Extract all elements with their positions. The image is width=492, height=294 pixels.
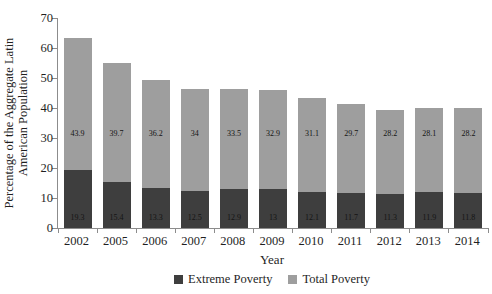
total-poverty-segment: [259, 90, 287, 189]
x-axis-label-2007: 2007: [174, 234, 213, 248]
total-poverty-segment: [415, 108, 443, 192]
legend-item-total-poverty: Total Poverty: [288, 272, 370, 286]
x-tick-mark: [488, 228, 489, 233]
extreme-poverty-value-label: 19.3: [58, 213, 97, 222]
poverty-stacked-bar-chart: Percentage of the Aggregate Latin Americ…: [0, 0, 492, 294]
x-axis-label-2010: 2010: [291, 234, 330, 248]
x-axis-label-2006: 2006: [135, 234, 174, 248]
legend: Extreme Poverty Total Poverty: [57, 272, 487, 286]
extreme-poverty-value-label: 13.3: [136, 213, 175, 222]
total-poverty-segment: [103, 63, 131, 182]
x-tick-mark: [409, 228, 410, 233]
bar-2010: 12.131.1: [293, 18, 332, 228]
x-axis-label-2014: 2014: [448, 234, 487, 248]
extreme-poverty-value-label: 11.9: [410, 213, 449, 222]
extreme-poverty-value-label: 12.9: [214, 213, 253, 222]
total-poverty-value-label: 31.1: [293, 129, 332, 138]
total-poverty-segment: [181, 89, 209, 191]
x-tick-mark: [136, 228, 137, 233]
extreme-poverty-value-label: 11.3: [371, 213, 410, 222]
legend-label-total-poverty: Total Poverty: [302, 272, 370, 286]
extreme-poverty-segment: [415, 192, 443, 228]
extreme-poverty-value-label: 12.1: [293, 213, 332, 222]
bar-2002: 19.343.9: [58, 18, 97, 228]
x-axis-label-2011: 2011: [331, 234, 370, 248]
extreme-poverty-value-label: 11.8: [449, 213, 488, 222]
y-tick-label: 40: [15, 101, 53, 115]
x-axis-title: Year: [57, 252, 487, 267]
total-poverty-segment: [337, 104, 365, 193]
bar-2012: 11.328.2: [371, 18, 410, 228]
bar-2006: 13.336.2: [136, 18, 175, 228]
x-axis-label-2002: 2002: [57, 234, 96, 248]
x-axis-labels: 2002200520062007200820092010201120122013…: [57, 234, 487, 248]
y-tick-label: 70: [15, 11, 53, 25]
bar-2008: 12.933.5: [214, 18, 253, 228]
total-poverty-value-label: 29.7: [332, 129, 371, 138]
x-tick-mark: [175, 228, 176, 233]
extreme-poverty-segment: [454, 193, 482, 228]
x-axis-label-2005: 2005: [96, 234, 135, 248]
bar-2014: 11.828.2: [449, 18, 488, 228]
x-tick-mark: [370, 228, 371, 233]
bar-2011: 11.729.7: [332, 18, 371, 228]
x-tick-mark: [58, 228, 59, 233]
total-poverty-segment: [220, 89, 248, 190]
y-tick-label: 20: [15, 161, 53, 175]
y-tick-label: 60: [15, 41, 53, 55]
extreme-poverty-segment: [259, 189, 287, 228]
y-axis-title-line1: Percentage of the Aggregate Latin: [2, 13, 16, 233]
extreme-poverty-segment: [376, 194, 404, 228]
y-tick-label: 50: [15, 71, 53, 85]
total-poverty-value-label: 39.7: [97, 129, 136, 138]
total-poverty-value-label: 36.2: [136, 129, 175, 138]
total-poverty-segment: [454, 108, 482, 193]
x-axis-label-2009: 2009: [252, 234, 291, 248]
extreme-poverty-segment: [142, 188, 170, 228]
x-axis-label-2008: 2008: [213, 234, 252, 248]
total-poverty-segment: [64, 38, 92, 170]
bar-2009: 1332.9: [253, 18, 292, 228]
x-tick-mark: [253, 228, 254, 233]
y-tick-label: 30: [15, 131, 53, 145]
x-axis-label-2013: 2013: [409, 234, 448, 248]
total-poverty-value-label: 34: [175, 129, 214, 138]
total-poverty-value-label: 28.2: [449, 129, 488, 138]
extreme-poverty-segment: [220, 189, 248, 228]
plot-area: 01020304050607019.343.915.439.713.336.21…: [57, 18, 488, 229]
x-tick-mark: [292, 228, 293, 233]
total-poverty-segment: [376, 110, 404, 195]
x-tick-mark: [97, 228, 98, 233]
extreme-poverty-value-label: 12.5: [175, 213, 214, 222]
bar-2007: 12.534: [175, 18, 214, 228]
y-tick-label: 0: [15, 221, 53, 235]
extreme-poverty-value-label: 13: [253, 213, 292, 222]
extreme-poverty-segment: [298, 192, 326, 228]
total-poverty-value-label: 32.9: [253, 129, 292, 138]
total-poverty-value-label: 28.1: [410, 129, 449, 138]
total-poverty-value-label: 33.5: [214, 129, 253, 138]
extreme-poverty-segment: [337, 193, 365, 228]
total-poverty-value-label: 43.9: [58, 129, 97, 138]
extreme-poverty-value-label: 15.4: [97, 213, 136, 222]
extreme-poverty-segment: [181, 191, 209, 229]
extreme-poverty-value-label: 11.7: [332, 213, 371, 222]
x-tick-mark: [214, 228, 215, 233]
total-poverty-value-label: 28.2: [371, 129, 410, 138]
y-tick-label: 10: [15, 191, 53, 205]
total-poverty-swatch-icon: [288, 275, 297, 284]
bar-2005: 15.439.7: [97, 18, 136, 228]
legend-label-extreme-poverty: Extreme Poverty: [188, 272, 272, 286]
x-tick-mark: [448, 228, 449, 233]
bar-2013: 11.928.1: [410, 18, 449, 228]
x-tick-mark: [331, 228, 332, 233]
total-poverty-segment: [298, 98, 326, 191]
x-axis-label-2012: 2012: [370, 234, 409, 248]
extreme-poverty-swatch-icon: [174, 275, 183, 284]
legend-item-extreme-poverty: Extreme Poverty: [174, 272, 272, 286]
